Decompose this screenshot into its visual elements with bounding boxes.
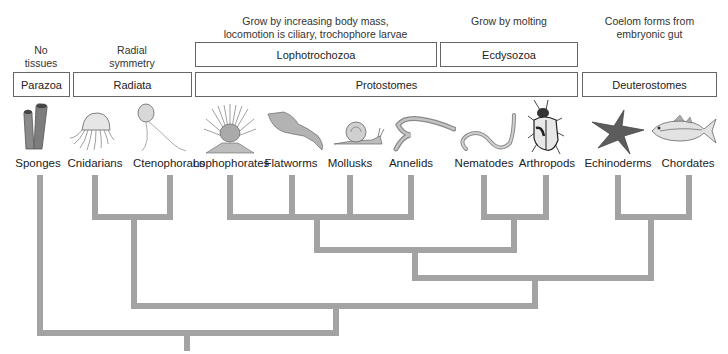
- phylogenetic-tree: [0, 0, 728, 354]
